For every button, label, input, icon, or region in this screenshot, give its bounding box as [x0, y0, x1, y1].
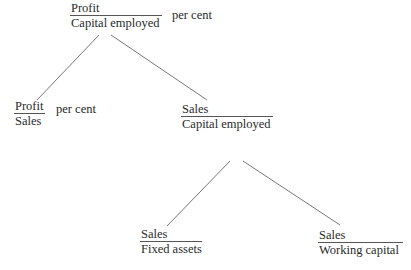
profit-sales-numerator: Profit: [14, 99, 45, 113]
sales-working-capital-ratio: Sales Working capital: [318, 228, 403, 257]
root-denominator: Capital employed: [70, 16, 162, 30]
root-ratio: Profit Capital employed: [70, 1, 162, 30]
edge-sales-capital-to-working-capital: [243, 161, 340, 225]
sales-fixed-denominator: Fixed assets: [140, 242, 202, 256]
sales-fixed-assets-ratio: Sales Fixed assets: [140, 227, 202, 256]
edge-root-to-profit-sales: [37, 35, 99, 100]
sales-fixed-numerator: Sales: [140, 227, 202, 241]
profit-sales-suffix: per cent: [56, 102, 96, 116]
root-numerator: Profit: [70, 1, 162, 15]
sales-capital-numerator: Sales: [181, 102, 273, 116]
edge-root-to-sales-capital: [111, 35, 207, 100]
edge-sales-capital-to-fixed-assets: [167, 161, 230, 226]
sales-capital-ratio: Sales Capital employed: [181, 102, 273, 131]
sales-capital-denominator: Capital employed: [181, 117, 273, 131]
sales-working-numerator: Sales: [318, 228, 403, 242]
root-suffix: per cent: [172, 8, 212, 22]
profit-sales-denominator: Sales: [14, 114, 45, 128]
profit-sales-ratio: Profit Sales: [14, 99, 45, 128]
sales-working-denominator: Working capital: [318, 243, 403, 257]
